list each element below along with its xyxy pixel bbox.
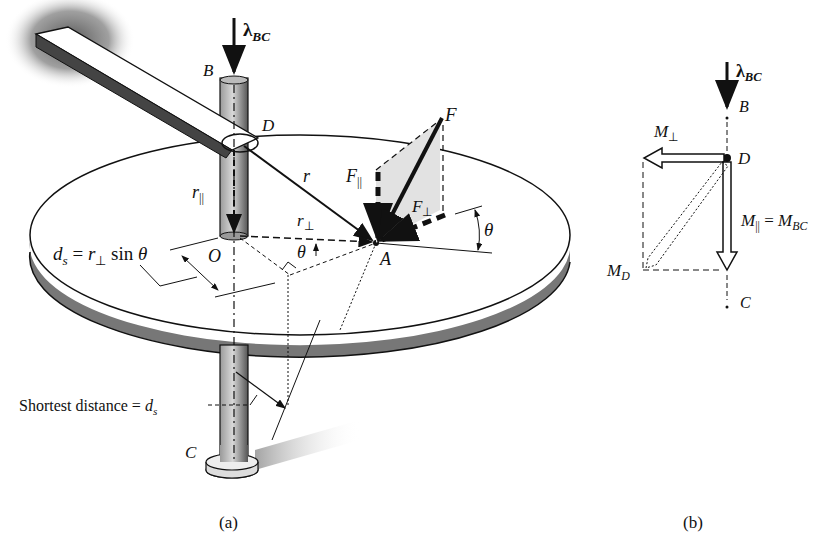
point-d-label: D [262,117,274,134]
point-o-label: O [208,247,221,265]
point-b-label: B [203,62,213,79]
ds-equation: ds = r⊥ sin θ [53,244,147,267]
m-perp-arrow [644,148,724,168]
force-f-label: F [445,105,457,124]
m-parallel-arrow [717,162,737,270]
r-parallel-label: r|| [192,183,204,205]
shortest-distance-label: Shortest distance = ds [19,398,157,417]
f-parallel-label: F|| [346,167,362,189]
point-a-label: A [380,250,391,268]
m-d-label: MD [607,262,630,283]
r-label: r [303,167,310,185]
point-b-label-b: B [739,99,749,115]
m-parallel-label: M|| = MBC [741,212,807,233]
caption-b: (b) [683,513,703,533]
theta-label-1: θ [297,243,306,261]
diagram-canvas [0,0,821,542]
f-perp-label: F⊥ [412,198,432,219]
m-d-arrow [646,162,728,268]
point-d-label-b: D [738,150,750,167]
lambda-bc-label-b: λBC [736,62,762,84]
lambda-bc-label-a: λBC [243,20,270,43]
point-c-label-b: C [740,295,751,311]
figure-b [643,62,737,309]
m-perp-label: M⊥ [654,123,678,144]
point-c-label: C [185,444,196,461]
r-perp-label: r⊥ [297,212,314,233]
theta-label-2: θ [484,220,493,239]
caption-a: (a) [219,513,238,533]
